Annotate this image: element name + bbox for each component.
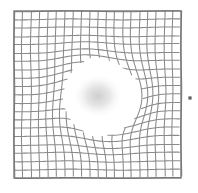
amsler-grid-figure	[0, 0, 198, 193]
amsler-grid-canvas: Amsler Grid Distortion Simulation	[0, 0, 198, 193]
fixation-dot	[188, 96, 191, 99]
scotoma-haze	[73, 74, 122, 118]
